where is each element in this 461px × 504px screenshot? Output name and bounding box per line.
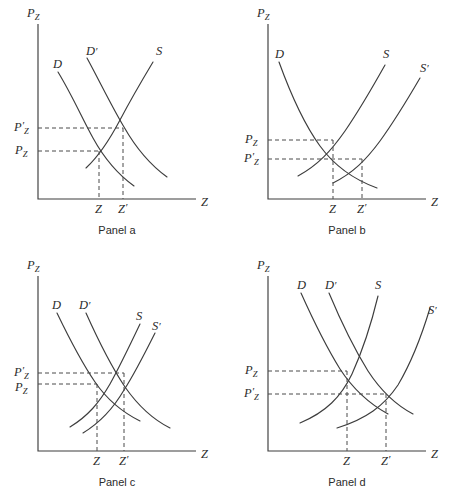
panel-d-label-S: S — [375, 278, 382, 292]
panel-d-x-axis-label: Z — [431, 447, 439, 461]
panel-c-y-axis-label: PZ — [26, 258, 40, 274]
panel-c-curve-S — [70, 324, 140, 427]
panel-c-xtick-right: Z′ — [119, 453, 129, 468]
panel-b-xtick-left: Z — [329, 202, 337, 216]
panel-d-y-axis-label: PZ — [256, 258, 270, 274]
panel-c-label-S-prime: S′ — [152, 319, 161, 333]
panel-d-label-D-prime: D′ — [324, 278, 337, 292]
panel-a-caption: Panel a — [98, 224, 136, 236]
panel-d-ytick-lower: P′Z — [243, 385, 259, 402]
panel-c-curve-D — [57, 313, 140, 421]
panel-a-curve-S — [86, 62, 153, 168]
panel-b-label-D: D — [274, 47, 284, 61]
panel-a-xtick-right: Z′ — [118, 201, 128, 216]
figure-container: PZ Z D D′ S P′Z PZ Z Z′ Panel a PZ Z — [0, 0, 461, 504]
panel-b: PZ Z D S S′ PZ P′Z Z Z′ Panel b — [243, 6, 439, 236]
panel-c-caption: Panel c — [99, 476, 136, 488]
panel-a-label-S: S — [156, 44, 163, 58]
panel-b-ytick-lower: P′Z — [243, 150, 259, 167]
panel-a-axes — [38, 24, 196, 199]
panel-d-xtick-left: Z — [343, 454, 351, 468]
panel-d: PZ Z D D′ S S′ PZ P′Z Z Z′ Panel d — [243, 258, 439, 488]
panel-a-label-D-prime: D′ — [85, 44, 98, 58]
panel-c-x-axis-label: Z — [201, 447, 209, 461]
panel-c-label-D-prime: D′ — [78, 298, 91, 312]
panel-a-ytick-lower: PZ — [14, 143, 28, 159]
panel-c-ytick-lower: PZ — [14, 380, 28, 396]
panel-c-label-D: D — [51, 298, 61, 312]
panel-c-xtick-left: Z — [93, 454, 101, 468]
panel-a-ytick-upper: P′Z — [13, 119, 29, 136]
panel-c-curve-S-prime — [83, 333, 155, 433]
panel-a-y-axis-label: PZ — [26, 6, 40, 22]
panel-a-x-axis-label: Z — [201, 195, 209, 209]
panel-d-label-D: D — [296, 278, 306, 292]
panel-b-label-S: S — [383, 47, 390, 61]
panel-b-y-axis-label: PZ — [256, 6, 270, 22]
panel-c-ytick-upper: P′Z — [13, 364, 29, 381]
panel-b-xtick-right: Z′ — [357, 201, 367, 216]
panel-b-x-axis-label: Z — [431, 195, 439, 209]
panel-d-label-S-prime: S′ — [428, 303, 437, 317]
figure-svg: PZ Z D D′ S P′Z PZ Z Z′ Panel a PZ Z — [0, 0, 461, 504]
panel-d-curve-D — [301, 293, 388, 414]
panel-d-curve-S-prime — [337, 308, 430, 428]
panel-c-axes — [38, 276, 196, 451]
panel-b-label-S-prime: S′ — [420, 61, 429, 75]
panel-b-curve-S-prime — [333, 78, 420, 183]
panel-d-ytick-upper: PZ — [244, 363, 258, 379]
panel-a: PZ Z D D′ S P′Z PZ Z Z′ Panel a — [13, 6, 209, 236]
panel-b-ytick-upper: PZ — [244, 132, 258, 148]
panel-d-caption: Panel d — [328, 476, 365, 488]
panel-d-curve-D-prime — [329, 293, 413, 414]
panel-c: PZ Z D D′ S S′ P′Z PZ Z Z′ Panel c — [13, 258, 209, 488]
panel-a-label-D: D — [52, 57, 62, 71]
panel-b-caption: Panel b — [328, 224, 365, 236]
panel-d-xtick-right: Z′ — [381, 453, 391, 468]
panel-a-xtick-left: Z — [95, 202, 103, 216]
panel-c-label-S: S — [136, 309, 143, 323]
